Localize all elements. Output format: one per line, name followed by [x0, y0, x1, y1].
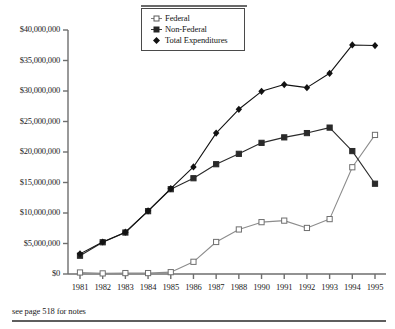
y-tick-label: $0: [0, 269, 60, 278]
footnote-text: see page 518 for notes: [12, 306, 86, 316]
chart-axes: [68, 30, 386, 274]
series-non-federal: [77, 125, 377, 258]
y-tick-label: $30,000,000: [0, 86, 60, 95]
series-total-expenditures: [77, 41, 378, 257]
footer-rule: [12, 320, 386, 322]
x-tick-label: 1995: [361, 283, 389, 292]
y-tick-label: $10,000,000: [0, 208, 60, 217]
y-tick-label: $40,000,000: [0, 25, 60, 34]
legend-label-total-expenditures: Total Expenditures: [163, 35, 228, 46]
y-axis-ticks: [63, 30, 68, 274]
legend-entry-total-expenditures: Total Expenditures: [149, 35, 238, 46]
legend-entry-non-federal: Non-Federal: [149, 24, 238, 35]
filled-diamond-icon: [149, 36, 163, 45]
y-tick-label: $15,000,000: [0, 178, 60, 187]
chart-figure: $40,000,000$35,000,000$30,000,000$25,000…: [0, 0, 395, 329]
open-square-icon: [149, 14, 163, 23]
legend-label-federal: Federal: [163, 13, 190, 24]
legend-entry-federal: Federal: [149, 13, 238, 24]
y-tick-label: $25,000,000: [0, 117, 60, 126]
legend-label-non-federal: Non-Federal: [163, 24, 207, 35]
y-tick-label: $5,000,000: [0, 239, 60, 248]
chart-legend: Federal Non-Federal Total Expenditures: [141, 8, 245, 51]
y-tick-label: $35,000,000: [0, 56, 60, 65]
y-tick-label: $20,000,000: [0, 147, 60, 156]
series-federal: [77, 132, 377, 276]
filled-square-icon: [149, 25, 163, 34]
